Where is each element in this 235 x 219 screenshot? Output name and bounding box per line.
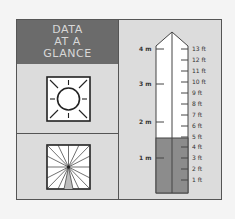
feet-label-4: 4 ft xyxy=(192,143,202,150)
height-ruler-panel: 4 m 3 m 2 m 1 m 13 ft 12 ft 11 ft 10 ft … xyxy=(119,20,221,199)
meter-label-1: 1 m xyxy=(139,154,152,161)
data-at-a-glance-card: DATA AT A GLANCE xyxy=(16,19,222,200)
left-column: DATA AT A GLANCE xyxy=(17,20,119,199)
feet-label-1: 1 ft xyxy=(192,176,202,183)
feet-label-11: 11 ft xyxy=(192,67,206,74)
feet-label-7: 7 ft xyxy=(192,111,202,118)
feet-label-2: 2 ft xyxy=(192,165,202,172)
feet-label-5: 5 ft xyxy=(192,133,202,140)
meter-label-3: 3 m xyxy=(139,80,152,87)
card-title: DATA AT A GLANCE xyxy=(17,20,118,64)
feet-label-3: 3 ft xyxy=(192,154,202,161)
shade-icon xyxy=(46,144,91,190)
meter-label-2: 2 m xyxy=(139,118,152,125)
title-line-3: GLANCE xyxy=(43,48,91,60)
full-sun-icon xyxy=(46,76,91,122)
feet-label-12: 12 ft xyxy=(192,56,206,63)
feet-label-8: 8 ft xyxy=(192,100,202,107)
feet-label-10: 10 ft xyxy=(192,78,206,85)
sun-exposure-panel xyxy=(17,64,118,134)
feet-label-13: 13 ft xyxy=(192,45,206,52)
meter-label-4: 4 m xyxy=(139,45,152,52)
feet-label-9: 9 ft xyxy=(192,89,202,96)
shade-panel xyxy=(17,134,118,199)
feet-label-6: 6 ft xyxy=(192,122,202,129)
